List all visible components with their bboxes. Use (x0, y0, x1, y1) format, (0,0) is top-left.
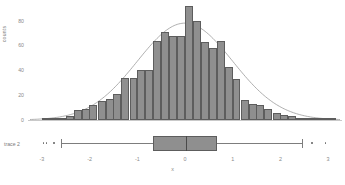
y-tick-label: 40 (6, 67, 24, 73)
boxplot-outlier-point (325, 142, 327, 144)
y-tick-label: 0 (6, 117, 24, 123)
y-tick-label: 80 (6, 18, 24, 24)
boxplot-whisker-low (61, 143, 153, 144)
x-tick-label: 3 (318, 156, 338, 162)
x-axis-title: x (0, 166, 345, 172)
histogram-plot-area (30, 2, 340, 120)
histogram-bar (185, 6, 193, 120)
boxplot-trace-label: trace 2 (4, 141, 20, 147)
boxplot-outlier-point (43, 142, 45, 144)
histogram-panel: counts 020406080 (0, 0, 345, 130)
histogram-bar (233, 79, 241, 120)
x-axis-baseline (28, 120, 342, 121)
x-tick-label: -1 (127, 156, 147, 162)
x-tick-label: -3 (32, 156, 52, 162)
y-tick-label: 60 (6, 42, 24, 48)
boxplot-whisker-cap-low (61, 139, 62, 148)
boxplot-outlier-point (46, 142, 48, 144)
histogram-bar (74, 110, 82, 120)
x-tick-label: 0 (175, 156, 195, 162)
histogram-bar (256, 105, 264, 120)
x-axis: -3-2-10123 x (0, 156, 345, 185)
boxplot-outlier-point (311, 142, 313, 144)
boxplot-median-line (186, 136, 187, 151)
histogram-bar (169, 36, 177, 120)
x-tick-label: -2 (80, 156, 100, 162)
histogram-bar (241, 100, 249, 120)
statistics-figure: counts 020406080 trace 2 -3-2-10123 x (0, 0, 345, 185)
histogram-bar (145, 70, 153, 120)
x-tick-label: 2 (270, 156, 290, 162)
y-tick-label: 20 (6, 92, 24, 98)
histogram-bar (98, 101, 106, 120)
boxplot-panel (0, 130, 345, 156)
histogram-bar (264, 109, 272, 120)
boxplot-outlier-point (53, 142, 55, 144)
histogram-bar (89, 105, 97, 120)
histogram-bar (137, 70, 145, 120)
histogram-bar (217, 41, 225, 120)
histogram-bar (161, 32, 169, 120)
histogram-bar (209, 48, 217, 120)
boxplot-whisker-cap-high (302, 139, 303, 148)
histogram-bar (121, 78, 129, 120)
x-tick-label: 1 (223, 156, 243, 162)
boxplot-whisker-high (217, 143, 302, 144)
histogram-bar (193, 21, 201, 120)
histogram-bar (113, 94, 121, 120)
